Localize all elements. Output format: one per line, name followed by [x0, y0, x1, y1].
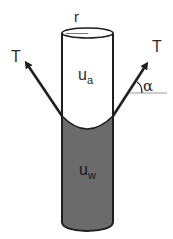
angle-label: α	[143, 77, 153, 95]
radius-label: r	[74, 8, 79, 25]
tube-top-ellipse	[62, 28, 113, 38]
air-pressure-main: u	[78, 66, 87, 83]
tension-arrow-left	[27, 64, 62, 116]
air-pressure-label: ua	[78, 66, 94, 86]
angle-arc	[137, 82, 142, 93]
tension-arrow-right	[113, 65, 146, 116]
water-pressure-sub: w	[87, 169, 96, 181]
tension-label-right: T	[152, 38, 162, 55]
water-pressure-main: u	[79, 161, 88, 178]
tension-label-left: T	[11, 48, 21, 65]
air-pressure-sub: a	[87, 74, 94, 86]
capillary-diagram: r T T α ua uw	[0, 0, 173, 239]
